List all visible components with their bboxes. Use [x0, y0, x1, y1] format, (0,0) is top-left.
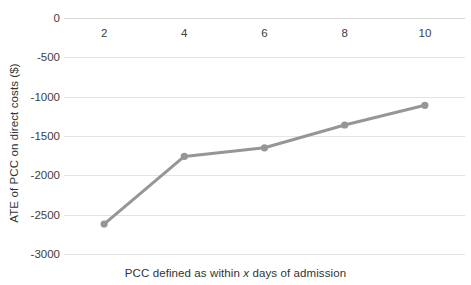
y-axis-title: ATE of PCC on direct costs ($): [4, 0, 24, 285]
y-axis-tick-label: -1500: [2, 130, 60, 142]
data-point-marker: [341, 121, 348, 128]
series-polyline: [104, 105, 425, 224]
data-point-marker: [261, 144, 268, 151]
y-axis-tick-label: -2500: [2, 209, 60, 221]
y-axis-tick-label: -2000: [2, 169, 60, 181]
data-point-marker: [181, 153, 188, 160]
x-axis-title-after: days of admission: [249, 267, 346, 279]
x-axis-title-before: PCC defined as within: [125, 267, 244, 279]
data-point-marker: [101, 221, 108, 228]
x-axis-title: PCC defined as within x days of admissio…: [0, 267, 471, 279]
y-axis-tick-label: -3000: [2, 248, 60, 260]
y-axis-tick-label: 0: [2, 12, 60, 24]
data-point-marker: [421, 102, 428, 109]
gridline: [64, 254, 465, 255]
y-axis-title-label: ATE of PCC on direct costs ($): [8, 63, 20, 222]
series-line-ate-of-pcc: [64, 18, 465, 254]
y-axis-tick-label: -500: [2, 51, 60, 63]
line-chart: ATE of PCC on direct costs ($) 0-500-100…: [0, 0, 471, 285]
y-axis-tick-label: -1000: [2, 91, 60, 103]
plot-area: 0-500-1000-1500-2000-2500-3000 246810: [64, 18, 465, 254]
series-markers: [101, 102, 429, 228]
